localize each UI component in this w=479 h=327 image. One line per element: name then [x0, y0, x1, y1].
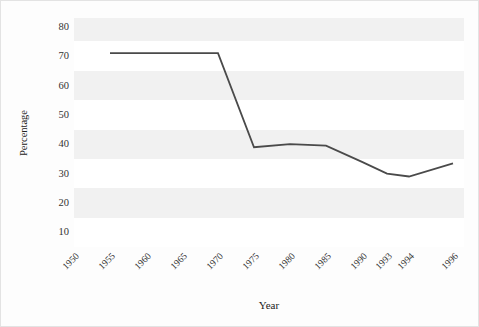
x-tick-label-text: 1950 [61, 251, 82, 272]
series-percentage-line [110, 53, 453, 176]
x-tick-label-text: 1965 [169, 251, 190, 272]
x-tick-label-text: 1985 [313, 251, 334, 272]
x-axis-ticks: 1950195519601965197019751980198519901993… [74, 251, 464, 295]
y-tick-label: 70 [41, 51, 69, 62]
x-tick-label-text: 1960 [133, 251, 154, 272]
x-tick-label-text: 1955 [97, 251, 118, 272]
series-line-chart [74, 18, 464, 247]
x-tick-label-text: 1970 [205, 251, 226, 272]
y-axis-ticks: 1020304050607080 [37, 18, 69, 247]
y-tick-label: 30 [41, 168, 69, 179]
y-tick-label: 80 [41, 22, 69, 33]
chart-figure: Percentage 1020304050607080 195019551960… [0, 0, 479, 327]
x-tick-label-text: 1994 [396, 251, 417, 272]
y-tick-label: 60 [41, 80, 69, 91]
y-tick-label: 50 [41, 110, 69, 121]
x-tick-label-text: 1993 [374, 251, 395, 272]
x-tick-label-text: 1996 [440, 251, 461, 272]
y-axis-title: Percentage [15, 18, 31, 247]
plot-area [74, 18, 464, 247]
y-tick-label: 10 [41, 227, 69, 238]
y-tick-label: 20 [41, 198, 69, 209]
y-axis-title-text: Percentage [18, 109, 29, 155]
x-tick-label-text: 1980 [277, 251, 298, 272]
x-tick-label-text: 1990 [349, 251, 370, 272]
x-tick-label-text: 1975 [241, 251, 262, 272]
y-tick-label: 40 [41, 139, 69, 150]
x-axis-title: Year [74, 299, 464, 311]
